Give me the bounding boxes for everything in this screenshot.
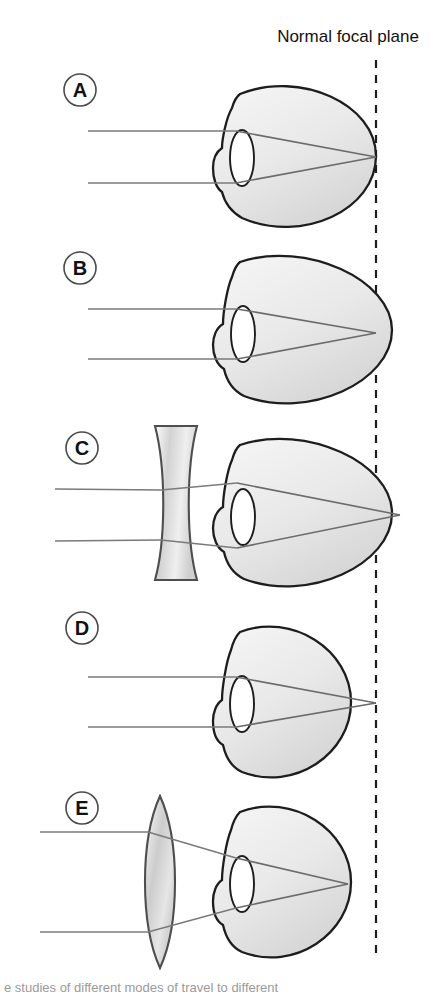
convex-corrective-lens [145, 796, 175, 968]
panel-a: A [64, 74, 376, 227]
light-ray-lower-incident-c [55, 540, 161, 541]
focal-plane-label: Normal focal plane [273, 26, 423, 47]
panel-label-c: C [75, 437, 89, 459]
panel-e: E [40, 792, 351, 968]
panel-label-a: A [73, 79, 87, 101]
panel-label-b: B [73, 257, 87, 279]
crystalline-lens-a [230, 130, 254, 186]
crystalline-lens-b [231, 306, 255, 362]
panel-b: B [64, 252, 392, 403]
concave-corrective-lens [155, 426, 197, 580]
panel-label-d: D [75, 617, 89, 639]
panel-d: D [66, 612, 376, 777]
focal-plane-label-text: Normal focal plane [277, 27, 419, 46]
crystalline-lens-c [231, 489, 255, 545]
diagram-canvas: A B C [0, 0, 441, 994]
light-ray-upper-incident-c [55, 489, 161, 490]
panel-label-e: E [75, 797, 88, 819]
crystalline-lens-e [230, 856, 254, 912]
clipped-caption: e studies of different modes of travel t… [0, 981, 441, 994]
clipped-caption-text: e studies of different modes of travel t… [0, 981, 441, 994]
crystalline-lens-d [230, 676, 254, 732]
panel-c: C [55, 426, 400, 586]
eye-refraction-diagram: Normal focal plane [0, 0, 441, 994]
